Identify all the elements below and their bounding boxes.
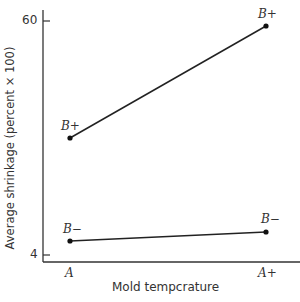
y-tick-label-60: 60 [22,13,37,27]
point-label-b-minus-left: B− [63,222,82,236]
point-label-b-minus-right: B− [261,212,280,226]
x-axis-title: Mold tempcrature [112,280,219,294]
series-b-plus-point-a-minus [67,135,72,140]
y-axis-title: Average shrinkage (percent × 100) [3,18,19,278]
interaction-plot [0,0,300,302]
x-category-label-a-plus: A+ [258,266,277,280]
series-b-minus-line [70,232,266,241]
series-b-plus-line [70,26,266,138]
series-b-minus-point-a-plus [263,229,268,234]
point-label-b-plus-left: B+ [61,119,80,133]
x-category-label-a-minus: A [65,266,74,280]
y-tick-label-4: 4 [30,247,38,261]
point-label-b-plus-right: B+ [258,7,277,21]
series-b-plus-point-a-plus [263,23,268,28]
series-b-minus-point-a-minus [67,238,72,243]
